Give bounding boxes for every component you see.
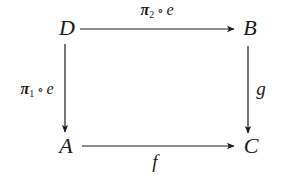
node-d: D [59,17,75,39]
label-left-compose: ∘ [37,82,43,97]
label-right-edge: g [256,81,266,97]
label-left-arg: e [47,80,54,97]
label-top-symbol: π [140,1,149,18]
label-top-subscript: 2 [149,9,154,20]
node-a: A [59,135,72,157]
label-top-arg: e [167,1,174,18]
label-left-symbol: π [20,80,29,97]
label-top-edge: π2∘e [140,2,173,23]
label-bottom-edge: f [152,154,157,170]
node-c: C [244,135,259,157]
label-left-edge: π1∘e [20,81,53,102]
label-top-compose: ∘ [157,3,163,18]
label-left-subscript: 1 [29,88,34,99]
node-b: B [243,17,256,39]
